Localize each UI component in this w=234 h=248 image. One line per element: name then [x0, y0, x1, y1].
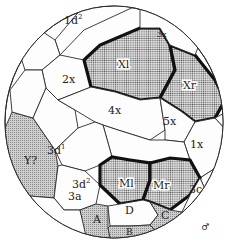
embryo-diagram: 1d2 3x 2x Xl Xl Xr Xr 4x 5x 3d1 Y? 3d2 1… [0, 0, 234, 248]
label-Ml: Ml [119, 177, 134, 190]
label-Xl: Xl [118, 58, 130, 71]
label-A: A [92, 213, 102, 226]
label-3x: 3x [157, 30, 167, 39]
label-B: B [126, 227, 133, 237]
label-D: D [125, 204, 134, 217]
label-Mr: Mr [153, 179, 170, 192]
label-1x: 1x [190, 138, 204, 151]
label-5x: 5x [163, 115, 177, 128]
label-3a: 3a [68, 190, 82, 203]
male-symbol-icon: ♂ [201, 222, 209, 232]
label-2x: 2x [62, 73, 76, 86]
label-Xr: Xr [183, 79, 197, 92]
label-Y: Y? [23, 154, 37, 167]
label-3c: 3c [189, 183, 202, 196]
label-4x: 4x [108, 104, 122, 117]
label-C: C [161, 209, 169, 222]
